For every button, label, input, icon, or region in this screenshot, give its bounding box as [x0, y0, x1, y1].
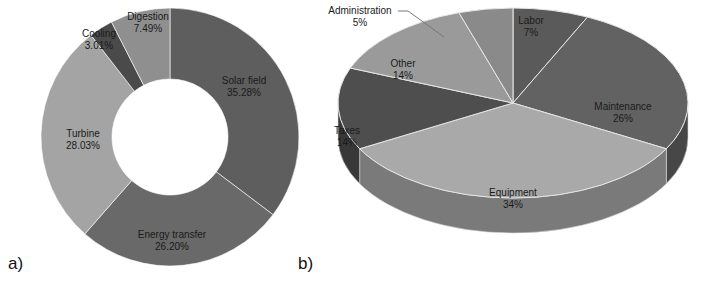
pie-3d-chart: Labor7%Maintenance26%Equipment34%Taxes14…	[300, 0, 714, 283]
donut-slice-solar-field	[170, 8, 299, 215]
donut-label-solar-field: Solar field35.28%	[222, 75, 266, 98]
donut-chart-panel: Solar field35.28%Energy transfer26.20%Tu…	[0, 0, 300, 283]
panel-label-b: b)	[298, 254, 313, 274]
pie-label-administration: Administration5%	[328, 5, 391, 28]
pie-3d-chart-panel: Labor7%Maintenance26%Equipment34%Taxes14…	[300, 0, 714, 283]
donut-chart: Solar field35.28%Energy transfer26.20%Tu…	[0, 0, 300, 283]
pie-label-taxes: Taxes14%	[334, 125, 360, 148]
panel-label-a: a)	[8, 254, 23, 274]
pie-label-other: Other14%	[390, 58, 416, 81]
donut-label-turbine: Turbine28.03%	[66, 128, 100, 151]
donut-label-cooling: Cooling3.01%	[82, 28, 116, 51]
